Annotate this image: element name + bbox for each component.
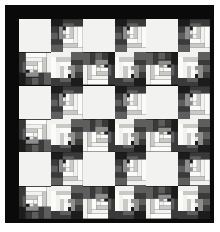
quilt-plain-block [146, 152, 178, 185]
logcabin-strip [87, 213, 108, 218]
quilt-plain-block [146, 86, 178, 119]
quilt-logcabin-block [146, 52, 178, 85]
logcabin-strip [171, 120, 178, 132]
logcabin-strip [87, 80, 108, 85]
logcabin-strip [108, 65, 112, 76]
quilt-logcabin-block [115, 52, 147, 85]
quilt-logcabin-block [178, 152, 210, 185]
logcabin-strip [195, 66, 198, 70]
logcabin-strip [201, 27, 205, 43]
logcabin-strip [51, 166, 58, 173]
logcabin-strip [133, 93, 137, 105]
logcabin-strip [159, 199, 163, 202]
logcabin-strip [171, 132, 175, 143]
logcabin-strip [139, 65, 146, 72]
logcabin-strip [190, 176, 205, 180]
logcabin-strip [83, 120, 90, 132]
logcabin-rotation-group [51, 52, 83, 85]
logcabin-strip [34, 203, 38, 206]
logcabin-strip [19, 206, 26, 218]
logcabin-strip [63, 101, 66, 105]
logcabin-strip [100, 199, 104, 202]
logcabin-strip [51, 19, 63, 27]
logcabin-strip [190, 101, 193, 105]
logcabin-rotation-group [51, 86, 83, 119]
logcabin-strip [178, 173, 190, 178]
logcabin-strip [137, 93, 141, 109]
quilt-block-field [19, 19, 210, 219]
logcabin-strip [91, 143, 107, 147]
logcabin-rotation-group [115, 186, 147, 219]
logcabin-strip [195, 133, 198, 137]
logcabin-strip [159, 132, 163, 135]
plain-patch [83, 19, 115, 52]
logcabin-strip [127, 39, 138, 43]
logcabin-strip [155, 76, 171, 80]
logcabin-strip [203, 199, 210, 206]
logcabin-strip [115, 99, 122, 106]
logcabin-strip [70, 27, 74, 39]
logcabin-strip [190, 39, 201, 43]
logcabin-strip [115, 178, 127, 186]
quilt-logcabin-block [83, 119, 115, 152]
logcabin-strip [123, 211, 134, 215]
logcabin-strip [190, 168, 193, 172]
quilt-logcabin-block [51, 186, 83, 219]
logcabin-strip [115, 106, 127, 111]
quilt-logcabin-block [115, 152, 147, 185]
logcabin-strip [63, 43, 78, 47]
quilt-photo-canvas [0, 0, 220, 232]
logcabin-strip [205, 93, 210, 114]
logcabin-strip [163, 132, 167, 135]
logcabin-strip [51, 173, 63, 178]
logcabin-strip [127, 90, 138, 94]
logcabin-strip [100, 65, 104, 68]
logcabin-strip [71, 78, 83, 86]
logcabin-rotation-group [51, 186, 83, 219]
logcabin-strip [134, 78, 146, 86]
logcabin-strip [19, 139, 26, 151]
logcabin-rotation-group [146, 53, 178, 85]
logcabin-strip [63, 23, 74, 27]
logcabin-strip [129, 93, 133, 101]
logcabin-strip [51, 45, 63, 53]
logcabin-strip [198, 119, 210, 127]
quilt-logcabin-block [178, 186, 210, 219]
logcabin-strip [34, 70, 38, 73]
logcabin-strip [115, 19, 127, 27]
logcabin-strip [115, 173, 127, 178]
logcabin-strip [108, 120, 115, 132]
quilt-logcabin-block [178, 86, 210, 119]
quilt-logcabin-block [115, 119, 147, 152]
logcabin-strip [90, 120, 95, 132]
quilt-plain-block [83, 19, 115, 52]
logcabin-strip [165, 186, 171, 193]
logcabin-strip [63, 176, 78, 180]
logcabin-strip [60, 211, 71, 215]
logcabin-strip [26, 206, 39, 211]
logcabin-strip [178, 93, 185, 99]
logcabin-rotation-group [51, 19, 83, 52]
logcabin-strip [134, 52, 146, 60]
logcabin-strip [131, 66, 134, 70]
logcabin-strip [139, 72, 146, 78]
logcabin-strip [127, 156, 138, 160]
logcabin-strip [87, 147, 108, 152]
quilt-logcabin-block [115, 186, 147, 219]
logcabin-strip [91, 76, 107, 80]
logcabin-strip [127, 35, 130, 39]
plain-patch [146, 19, 178, 52]
logcabin-strip [96, 199, 100, 202]
logcabin-rotation-group [178, 19, 210, 52]
logcabin-strip [115, 160, 122, 166]
logcabin-rotation-group [115, 19, 147, 52]
plain-patch [146, 86, 178, 119]
logcabin-strip [51, 160, 58, 166]
logcabin-strip [90, 186, 95, 198]
logcabin-strip [70, 160, 74, 172]
logcabin-strip [178, 106, 190, 111]
logcabin-strip [193, 160, 197, 168]
logcabin-strip [205, 27, 210, 48]
logcabin-strip [115, 45, 127, 53]
logcabin-strip [190, 43, 205, 47]
